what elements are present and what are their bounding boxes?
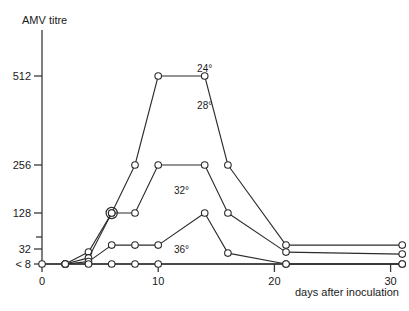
data-point-marker [155, 73, 162, 80]
data-point-marker [155, 162, 162, 169]
x-tick-label: 0 [39, 275, 45, 287]
y-tick-label: < 8 [15, 258, 31, 270]
data-point-marker [225, 250, 232, 257]
data-point-marker [155, 261, 162, 268]
series-label-36deg: 36° [174, 244, 189, 255]
series-label-24deg: 24° [197, 63, 212, 74]
data-point-marker [225, 162, 232, 169]
data-point-marker [201, 162, 208, 169]
data-point-marker [108, 242, 115, 249]
data-point-marker [108, 210, 115, 217]
data-point-marker [283, 249, 290, 256]
data-point-marker [132, 210, 139, 217]
data-point-marker [225, 210, 232, 217]
data-point-marker [201, 210, 208, 217]
x-tick-label: 20 [268, 275, 280, 287]
data-point-marker [132, 261, 139, 268]
series-label-32deg: 32° [174, 185, 189, 196]
y-axis-title: AMV titre [22, 14, 67, 26]
data-point-marker [399, 251, 406, 258]
amv-titre-line-chart: AMV titre 51225612832< 8 0102030 24°28°3… [0, 0, 409, 311]
y-tick-label: 256 [13, 159, 31, 171]
data-point-marker [132, 242, 139, 249]
data-point-marker [399, 242, 406, 249]
y-tick-label: 32 [19, 243, 31, 255]
data-point-marker [399, 261, 406, 268]
series-label-28deg: 28° [197, 100, 212, 111]
x-tick-label: 10 [152, 275, 164, 287]
data-point-marker [62, 261, 69, 268]
x-axis-title: days after inoculation [295, 286, 399, 298]
data-point-marker [85, 261, 92, 268]
y-tick-label: 128 [13, 207, 31, 219]
y-tick-label: 512 [13, 70, 31, 82]
data-point-marker [132, 162, 139, 169]
data-point-marker [155, 242, 162, 249]
data-point-marker [283, 242, 290, 249]
data-point-marker [108, 261, 115, 268]
data-point-marker [39, 261, 46, 268]
chart-figure: AMV titre 51225612832< 8 0102030 24°28°3… [0, 0, 409, 311]
data-point-marker [283, 261, 290, 268]
